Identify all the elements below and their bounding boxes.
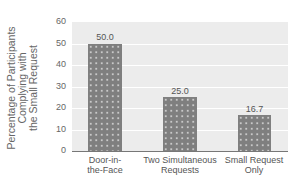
value-label: 16.7 bbox=[230, 104, 280, 114]
y-tick: 20 bbox=[44, 102, 66, 112]
value-label: 25.0 bbox=[155, 86, 205, 96]
y-tick: 50 bbox=[44, 38, 66, 48]
y-axis-label: Percentage of Participants Complying wit… bbox=[2, 20, 42, 155]
x-axis-line bbox=[72, 151, 288, 152]
x-category-line: the-Face bbox=[65, 165, 145, 175]
y-tick: 40 bbox=[44, 59, 66, 69]
x-category-label: Two Simultaneous Requests bbox=[140, 155, 220, 175]
y-tick: 60 bbox=[44, 16, 66, 26]
bar-door-in-the-face bbox=[88, 44, 122, 152]
x-category-label: Small Request Only bbox=[214, 155, 294, 175]
y-tick: 30 bbox=[44, 81, 66, 91]
plot-area: 50.0 25.0 16.7 bbox=[72, 22, 288, 151]
y-tick: 10 bbox=[44, 124, 66, 134]
value-label: 50.0 bbox=[80, 32, 130, 42]
y-tick: 0 bbox=[44, 145, 66, 155]
x-category-line: Small Request bbox=[214, 155, 294, 165]
x-category-line: Door-in- bbox=[65, 155, 145, 165]
x-category-line: Only bbox=[214, 165, 294, 175]
y-axis-label-line: the Small Request bbox=[28, 26, 39, 149]
x-category-label: Door-in- the-Face bbox=[65, 155, 145, 175]
bar-two-simultaneous-requests bbox=[163, 97, 197, 151]
x-category-line: Requests bbox=[140, 165, 220, 175]
x-category-line: Two Simultaneous bbox=[140, 155, 220, 165]
bar-small-request-only bbox=[238, 115, 271, 151]
